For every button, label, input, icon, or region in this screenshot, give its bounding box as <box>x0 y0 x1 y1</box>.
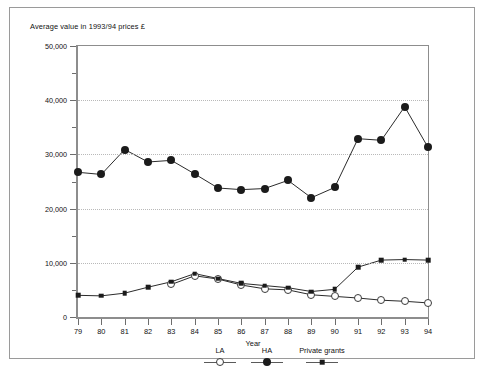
y-tick-label: 50,000 <box>45 42 67 51</box>
data-point-private-grants <box>122 291 127 296</box>
x-tick <box>171 319 172 325</box>
x-tick-label: 80 <box>97 327 105 336</box>
legend-symbol <box>320 360 325 365</box>
x-tick <box>218 319 219 325</box>
data-point-private-grants <box>286 285 291 290</box>
x-tick <box>148 319 149 325</box>
legend-label: LA <box>215 346 224 355</box>
data-point-private-grants <box>169 279 174 284</box>
x-tick <box>101 319 102 325</box>
data-point-private-grants <box>146 285 151 290</box>
data-point-ha <box>354 135 362 143</box>
data-point-private-grants <box>356 265 361 270</box>
y-tick-label: 40,000 <box>45 96 67 105</box>
x-tick-label: 91 <box>354 327 362 336</box>
legend-label: HA <box>262 346 272 355</box>
x-tick <box>265 319 266 325</box>
data-point-ha <box>191 170 199 178</box>
data-point-ha <box>424 143 432 151</box>
plot-area <box>77 45 429 318</box>
x-tick-label: 89 <box>307 327 315 336</box>
x-axis-labels: 79808182838485868788899091929394 <box>77 327 429 339</box>
data-point-private-grants <box>402 257 407 262</box>
y-axis-labels: 010,00020,00030,00040,00050,000 <box>10 45 76 319</box>
data-point-private-grants <box>216 276 221 281</box>
x-tick-label: 90 <box>331 327 339 336</box>
data-point-private-grants <box>309 289 314 294</box>
data-point-private-grants <box>262 283 267 288</box>
x-tick <box>428 319 429 325</box>
x-tick-label: 84 <box>191 327 199 336</box>
x-tick <box>288 319 289 325</box>
y-tick-label: 30,000 <box>45 150 67 159</box>
x-tick <box>78 319 79 325</box>
x-tick <box>195 319 196 325</box>
y-tick-label: 20,000 <box>45 204 67 213</box>
x-tick-label: 92 <box>377 327 385 336</box>
x-tick <box>125 319 126 325</box>
x-tick-label: 93 <box>401 327 409 336</box>
chart-frame: Average value in 1993/94 prices £ 010,00… <box>9 7 475 359</box>
x-axis-ticks <box>77 319 429 326</box>
data-point-la <box>331 292 339 300</box>
data-point-ha <box>307 194 315 202</box>
gridline <box>78 154 428 155</box>
x-tick-label: 79 <box>74 327 82 336</box>
data-point-ha <box>97 170 105 178</box>
x-tick-label: 82 <box>144 327 152 336</box>
data-point-la <box>354 294 362 302</box>
series-line-ha <box>78 107 428 198</box>
series-lines <box>78 46 428 317</box>
y-axis-title: Average value in 1993/94 prices £ <box>30 22 145 31</box>
x-tick-label: 87 <box>261 327 269 336</box>
x-tick <box>241 319 242 325</box>
x-tick-label: 94 <box>424 327 432 336</box>
data-point-ha <box>144 158 152 166</box>
x-tick-label: 85 <box>214 327 222 336</box>
data-point-private-grants <box>426 258 431 263</box>
y-tick-label: 0 <box>63 313 67 322</box>
x-tick <box>405 319 406 325</box>
data-point-la <box>424 299 432 307</box>
legend-label: Private grants <box>299 346 345 355</box>
chart-legend: LAHAPrivate grants <box>10 346 474 368</box>
data-point-private-grants <box>239 281 244 286</box>
data-point-ha <box>74 168 82 176</box>
x-tick <box>311 319 312 325</box>
series-line-private-grants <box>78 260 428 296</box>
legend-symbol <box>216 358 224 366</box>
data-point-ha <box>237 186 245 194</box>
data-point-ha <box>261 185 269 193</box>
gridline <box>78 263 428 264</box>
x-tick <box>358 319 359 325</box>
data-point-ha <box>121 146 129 154</box>
data-point-private-grants <box>332 287 337 292</box>
data-point-ha <box>377 136 385 144</box>
x-tick-label: 81 <box>121 327 129 336</box>
data-point-private-grants <box>379 258 384 263</box>
gridline <box>78 100 428 101</box>
x-tick <box>335 319 336 325</box>
data-point-la <box>377 296 385 304</box>
data-point-ha <box>284 176 292 184</box>
y-tick-label: 10,000 <box>45 258 67 267</box>
x-tick-label: 86 <box>237 327 245 336</box>
legend-symbol <box>263 358 271 366</box>
data-point-ha <box>401 103 409 111</box>
x-tick-label: 83 <box>167 327 175 336</box>
data-point-private-grants <box>192 271 197 276</box>
data-point-la <box>401 297 409 305</box>
x-tick <box>381 319 382 325</box>
data-point-ha <box>167 156 175 164</box>
data-point-ha <box>214 184 222 192</box>
gridline <box>78 209 428 210</box>
data-point-ha <box>331 183 339 191</box>
data-point-private-grants <box>76 293 81 298</box>
data-point-private-grants <box>99 294 104 299</box>
x-tick-label: 88 <box>284 327 292 336</box>
